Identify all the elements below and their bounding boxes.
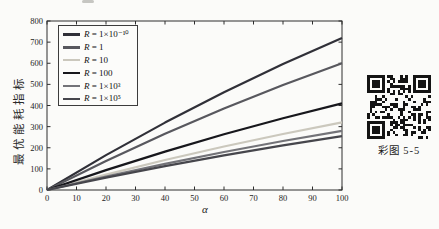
- qr-code: [367, 75, 431, 139]
- x-tick-label: 0: [45, 193, 49, 203]
- legend-label: R = 1×10⁵: [84, 94, 121, 103]
- legend-swatch: [63, 33, 80, 36]
- legend-swatch: [63, 85, 80, 88]
- x-tick-label: 60: [220, 193, 229, 203]
- legend-item: R = 1: [63, 41, 137, 54]
- legend-swatch: [63, 46, 80, 49]
- x-tick-label: 30: [131, 193, 140, 203]
- legend-label: R = 10: [84, 56, 108, 65]
- x-tick-label: 90: [308, 193, 317, 203]
- x-tick-label: 20: [102, 193, 111, 203]
- legend-label: R = 1×10⁻¹⁰: [84, 30, 129, 39]
- legend-item: R = 100: [63, 67, 137, 80]
- legend-item: R = 1×10⁵: [63, 92, 137, 105]
- legend: R = 1×10⁻¹⁰R = 1R = 10R = 100R = 1×10³R …: [58, 25, 138, 106]
- legend-item: R = 1×10³: [63, 80, 137, 93]
- y-tick-label: 0: [39, 185, 43, 195]
- series-line: [47, 103, 342, 190]
- qr-caption: 彩图 5-5: [367, 142, 431, 157]
- x-tick-label: 100: [336, 193, 349, 203]
- y-tick-label: 500: [30, 79, 43, 89]
- y-tick-label: 700: [30, 37, 43, 47]
- x-tick-label: 50: [190, 193, 199, 203]
- legend-swatch: [63, 59, 80, 62]
- x-axis-label: α: [185, 203, 225, 215]
- y-tick-label: 800: [30, 16, 43, 26]
- y-tick-label: 100: [30, 164, 43, 174]
- y-axis-label: 最优能耗指标: [10, 60, 25, 180]
- x-tick-label: 40: [161, 193, 170, 203]
- legend-label: R = 1: [84, 43, 104, 52]
- y-tick-label: 600: [30, 58, 43, 68]
- legend-label: R = 1×10³: [84, 82, 120, 91]
- legend-swatch: [63, 98, 80, 101]
- x-tick-label: 10: [72, 193, 81, 203]
- x-tick-label: 70: [249, 193, 258, 203]
- legend-label: R = 100: [84, 69, 113, 78]
- y-tick-label: 300: [30, 122, 43, 132]
- y-tick-label: 200: [30, 143, 43, 153]
- legend-swatch: [63, 72, 80, 75]
- qr-code-image: [367, 75, 431, 139]
- legend-item: R = 10: [63, 54, 137, 67]
- legend-item: R = 1×10⁻¹⁰: [63, 28, 137, 41]
- x-tick-label: 80: [279, 193, 288, 203]
- figure: 0102030405060708090100010020030040050060…: [0, 0, 439, 229]
- y-tick-label: 400: [30, 101, 43, 111]
